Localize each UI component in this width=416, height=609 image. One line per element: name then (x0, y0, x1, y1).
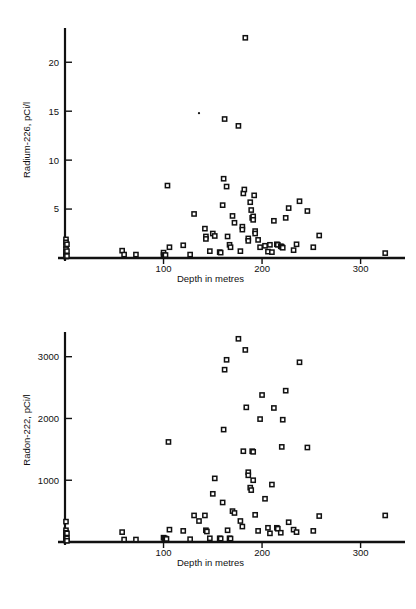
radium-226-chart: 1002003005101520Depth in metresRadium-22… (0, 0, 416, 300)
data-point (236, 124, 240, 128)
data-point (65, 242, 69, 246)
data-point (242, 187, 246, 191)
data-point (203, 513, 207, 517)
data-point (222, 427, 226, 431)
data-point (188, 252, 192, 256)
x-tick-label-300: 300 (353, 547, 369, 558)
data-point (225, 528, 229, 532)
data-point (383, 513, 387, 517)
data-point (268, 243, 272, 247)
data-point (222, 177, 226, 181)
data-point (287, 206, 291, 210)
data-point (163, 253, 167, 257)
y-axis-title: Radium-226, pCi/l (21, 102, 32, 178)
radon-222-plot-area: 100200300100020003000Depth in metresRado… (0, 300, 416, 609)
data-point (244, 405, 248, 409)
data-point (243, 36, 247, 40)
data-point (294, 242, 298, 246)
data-point (164, 537, 168, 541)
data-point (251, 478, 255, 482)
data-point (213, 476, 217, 480)
data-point (181, 243, 185, 247)
data-point (305, 209, 309, 213)
data-point (270, 250, 274, 254)
data-point (248, 200, 252, 204)
data-point (253, 231, 257, 235)
data-point (260, 393, 264, 397)
data-point (165, 183, 169, 187)
data-point (297, 360, 301, 364)
y-tick-label-1000: 1000 (38, 475, 59, 486)
x-tick-label-200: 200 (254, 547, 270, 558)
data-point-group (64, 337, 387, 543)
data-point (258, 417, 262, 421)
y-tick-label-5: 5 (54, 203, 59, 214)
data-point (208, 249, 212, 253)
data-point (65, 254, 69, 258)
data-point (253, 513, 257, 517)
data-point (223, 117, 227, 121)
data-point (219, 537, 223, 541)
data-point (208, 536, 212, 540)
data-point (252, 193, 256, 197)
data-point (64, 520, 68, 524)
data-point (221, 500, 225, 504)
data-point (134, 537, 138, 541)
data-point (167, 528, 171, 532)
data-point (272, 219, 276, 223)
x-tick-label-100: 100 (156, 547, 172, 558)
x-axis-title: Depth in metres (177, 273, 244, 284)
data-point (230, 214, 234, 218)
data-point (251, 450, 255, 454)
data-point (204, 237, 208, 241)
data-point (122, 537, 126, 541)
data-point (213, 234, 217, 238)
data-point (238, 519, 242, 523)
x-tick-label-300: 300 (353, 263, 369, 274)
data-point (224, 358, 228, 362)
data-point (224, 184, 228, 188)
data-point (272, 406, 276, 410)
data-point (249, 208, 253, 212)
data-point (246, 473, 250, 477)
data-point (263, 497, 267, 501)
data-point (228, 245, 232, 249)
data-point (281, 418, 285, 422)
x-tick-label-200: 200 (254, 263, 270, 274)
data-point (284, 216, 288, 220)
data-point (198, 112, 200, 114)
data-point (236, 337, 240, 341)
data-point (188, 537, 192, 541)
data-point (240, 524, 244, 528)
data-point (243, 348, 247, 352)
data-point (311, 245, 315, 249)
data-point (167, 245, 171, 249)
data-point (266, 526, 270, 530)
data-point-group (64, 36, 387, 259)
y-tick-label-10: 10 (48, 155, 59, 166)
data-point (65, 531, 69, 535)
data-point (238, 249, 242, 253)
data-point (246, 239, 250, 243)
data-point (232, 511, 236, 515)
data-point (65, 249, 69, 253)
data-point (281, 246, 285, 250)
x-tick-label-100: 100 (156, 263, 172, 274)
radium-226-plot-area: 1002003005101520Depth in metresRadium-22… (0, 0, 416, 300)
data-point (181, 529, 185, 533)
data-point (311, 529, 315, 533)
radon-222-chart: 100200300100020003000Depth in metresRado… (0, 300, 416, 609)
data-point (65, 539, 69, 543)
data-point (291, 248, 295, 252)
data-point (258, 245, 262, 249)
data-point (305, 445, 309, 449)
data-point (211, 492, 215, 496)
data-point (317, 514, 321, 518)
data-point (268, 531, 272, 535)
data-point (256, 529, 260, 533)
y-tick-label-2000: 2000 (38, 413, 59, 424)
data-point (203, 227, 207, 231)
data-point (205, 529, 209, 533)
y-tick-label-15: 15 (48, 106, 59, 117)
data-point (297, 199, 301, 203)
